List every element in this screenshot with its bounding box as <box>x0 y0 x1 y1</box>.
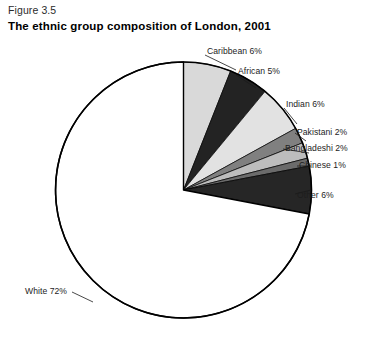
leader-line-white <box>72 292 93 302</box>
figure-container: Figure 3.5 The ethnic group composition … <box>0 0 370 344</box>
pie-label-white: White 72% <box>25 286 67 296</box>
pie-label-chinese: Chinese 1% <box>299 160 346 170</box>
pie-label-caribbean: Caribbean 6% <box>207 46 262 56</box>
pie-label-indian: Indian 6% <box>286 99 325 109</box>
pie-label-pakistani: Pakistani 2% <box>297 127 347 137</box>
pie-slice-group <box>55 62 311 318</box>
pie-label-other: Other 6% <box>297 190 334 200</box>
pie-label-african: African 5% <box>238 66 280 76</box>
pie-label-bangladeshi: Bangladeshi 2% <box>285 143 348 153</box>
pie-chart: Caribbean 6%African 5%Indian 6%Pakistani… <box>0 0 370 344</box>
